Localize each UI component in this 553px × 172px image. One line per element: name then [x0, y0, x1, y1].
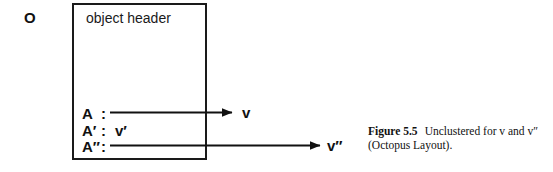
object-identifier-label: O	[24, 10, 36, 26]
attribute-name: A″	[82, 139, 101, 154]
caption-first-line: Figure 5.5Unclustered for v and v″	[368, 125, 550, 139]
attribute-row: A″ :	[82, 139, 115, 154]
caption-figure-title: Unclustered for v and v″	[425, 125, 538, 137]
attribute-row: A′ : v′	[82, 123, 127, 138]
caption-second-line: (Octopus Layout).	[368, 139, 550, 153]
caption-figure-number: Figure 5.5	[368, 125, 418, 137]
object-header-label: object header	[86, 10, 171, 27]
attribute-name: A	[82, 106, 101, 121]
attribute-value: v′	[114, 123, 127, 138]
attribute-colon: :	[101, 123, 114, 138]
attribute-row: A :	[82, 106, 115, 121]
attribute-colon: :	[101, 139, 114, 154]
pointer-target-label-v: v	[242, 105, 250, 120]
pointer-target-label-v2: v″	[327, 138, 343, 153]
attribute-name: A′	[82, 123, 101, 138]
figure-container: O object header A : A′ : v′ A″ : v v″ Fi…	[0, 0, 553, 172]
figure-caption: Figure 5.5Unclustered for v and v″ (Octo…	[368, 125, 550, 152]
attribute-colon: :	[101, 106, 114, 121]
